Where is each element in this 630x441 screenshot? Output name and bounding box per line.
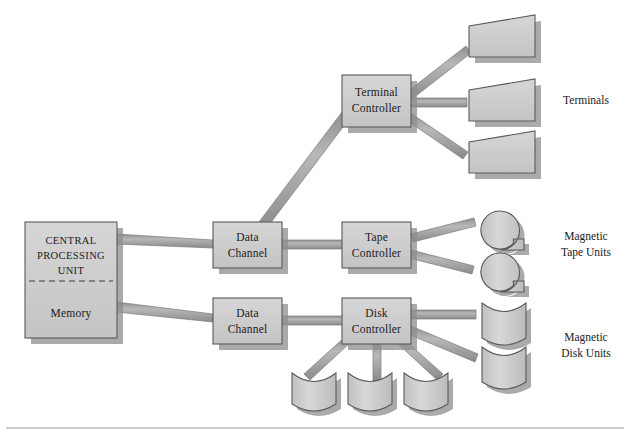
terminals-label: Terminals xyxy=(563,94,609,106)
peripheral-disk-unit-2[interactable] xyxy=(482,347,531,394)
peripheral-disk-unit-5[interactable] xyxy=(404,373,453,416)
peripheral-disk-unit-1[interactable] xyxy=(482,303,531,350)
connector-tape-controller-to-tape-1 xyxy=(411,218,476,242)
terminal-controller-label-line1: Terminal xyxy=(355,86,398,98)
peripheral-terminal-1[interactable] xyxy=(469,15,541,63)
tape-controller-label-line2: Controller xyxy=(352,247,401,259)
peripheral-tape-unit-2[interactable] xyxy=(481,253,529,297)
group-label-magnetic-disk-units: Magnetic Disk Units xyxy=(561,331,611,359)
group-label-magnetic-tape-units: Magnetic Tape Units xyxy=(561,230,612,259)
system-architecture-diagram: CENTRAL PROCESSING UNIT Memory Data Chan… xyxy=(0,0,630,441)
group-label-terminals: Terminals xyxy=(563,94,609,106)
peripheral-terminal-3[interactable] xyxy=(469,131,541,179)
magnetic-disk-label-line1: Magnetic xyxy=(564,331,607,344)
connector-tape-controller-to-tape-2 xyxy=(409,250,474,274)
connectors-layer xyxy=(116,46,478,381)
diagram-page: CENTRAL PROCESSING UNIT Memory Data Chan… xyxy=(0,0,630,441)
connector-memory-to-datachannel-bottom xyxy=(116,302,213,322)
node-disk-controller[interactable]: Disk Controller xyxy=(342,298,417,350)
cpu-label-line1: CENTRAL xyxy=(45,235,96,246)
data-channel-top-label-line2: Channel xyxy=(228,247,268,259)
peripheral-disk-unit-4[interactable] xyxy=(348,373,397,416)
data-channel-top-label-line1: Data xyxy=(236,231,259,243)
tape-controller-label-line1: Tape xyxy=(365,231,388,244)
connector-datachannel-to-tape-controller xyxy=(280,240,344,249)
connector-cpu-to-datachannel-top xyxy=(116,234,213,248)
node-terminal-controller[interactable]: Terminal Controller xyxy=(342,75,417,133)
cpu-label-line3: UNIT xyxy=(58,265,85,276)
magnetic-tape-label-line1: Magnetic xyxy=(564,230,607,243)
cpu-label-line2: PROCESSING xyxy=(37,250,105,261)
node-tape-controller[interactable]: Tape Controller xyxy=(342,222,417,274)
peripheral-tape-unit-1[interactable] xyxy=(481,211,529,255)
data-channel-bottom-label-line2: Channel xyxy=(228,323,268,335)
node-data-channel-bottom[interactable]: Data Channel xyxy=(213,298,288,350)
peripheral-disk-unit-3[interactable] xyxy=(292,373,341,416)
connector-disk-controller-to-disk-1 xyxy=(411,310,476,319)
node-data-channel-top[interactable]: Data Channel xyxy=(213,222,288,274)
magnetic-tape-label-line2: Tape Units xyxy=(561,246,612,259)
node-cpu[interactable]: CENTRAL PROCESSING UNIT Memory xyxy=(25,222,123,344)
disk-controller-label-line1: Disk xyxy=(365,307,388,319)
peripheral-terminal-2[interactable] xyxy=(469,79,541,127)
data-channel-bottom-label-line1: Data xyxy=(236,307,259,319)
cpu-memory-label: Memory xyxy=(51,307,92,320)
disk-controller-label-line2: Controller xyxy=(352,323,401,335)
magnetic-disk-label-line2: Disk Units xyxy=(561,347,611,359)
terminal-controller-label-line2: Controller xyxy=(352,102,401,114)
connector-datachannel-to-disk-controller xyxy=(280,316,344,325)
connector-datachannel-to-terminal-controller xyxy=(256,112,349,233)
connector-terminal-controller-to-terminal-2 xyxy=(409,98,467,107)
